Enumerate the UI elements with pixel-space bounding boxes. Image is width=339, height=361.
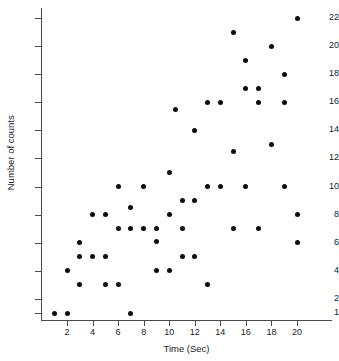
y-tick-mark — [35, 46, 41, 47]
y-tick-mark — [35, 243, 41, 244]
data-point — [282, 184, 287, 189]
data-point — [65, 268, 70, 273]
data-point — [77, 254, 82, 259]
x-tick-label: 6 — [107, 328, 129, 337]
data-point — [295, 212, 300, 217]
y-tick-label: 4 — [307, 266, 339, 275]
x-tick-mark — [118, 320, 119, 326]
x-tick-mark — [246, 320, 247, 326]
x-tick-mark — [195, 320, 196, 326]
x-tick-mark — [220, 320, 221, 326]
x-tick-label: 14 — [209, 328, 231, 337]
data-point — [52, 311, 57, 316]
y-tick-mark — [35, 299, 41, 300]
data-point — [154, 268, 159, 273]
data-point — [77, 240, 82, 245]
data-point — [256, 226, 261, 231]
y-tick-mark — [35, 18, 41, 19]
x-tick-label: 12 — [184, 328, 206, 337]
data-point — [256, 100, 261, 105]
data-point — [231, 149, 236, 154]
y-tick-label: 6 — [307, 238, 339, 247]
y-tick-mark — [35, 313, 41, 314]
data-point — [128, 226, 133, 231]
x-axis-title: Time (Sec) — [41, 344, 332, 354]
data-point — [180, 226, 185, 231]
y-axis-line — [41, 8, 42, 320]
data-point — [180, 254, 185, 259]
data-point — [192, 254, 197, 259]
data-point — [103, 212, 108, 217]
data-point — [141, 226, 146, 231]
data-point — [103, 254, 108, 259]
data-point — [128, 311, 133, 316]
y-tick-label: 10 — [307, 182, 339, 191]
data-point — [173, 107, 178, 112]
data-point — [65, 311, 70, 316]
x-tick-mark — [67, 320, 68, 326]
y-tick-label: 2 — [307, 294, 339, 303]
y-tick-mark — [35, 74, 41, 75]
data-point — [205, 184, 210, 189]
data-point — [243, 58, 248, 63]
data-point — [231, 226, 236, 231]
data-point — [154, 226, 159, 231]
data-point — [141, 184, 146, 189]
scatter-plot-figure: 1246810121416182022 2468101214161820 Tim… — [0, 0, 339, 361]
x-tick-label: 16 — [235, 328, 257, 337]
y-tick-label: 22 — [307, 13, 339, 22]
data-point — [243, 86, 248, 91]
data-point — [269, 44, 274, 49]
y-tick-label: 8 — [307, 210, 339, 219]
data-point — [116, 282, 121, 287]
data-point — [90, 254, 95, 259]
x-tick-mark — [271, 320, 272, 326]
x-tick-label: 10 — [158, 328, 180, 337]
data-point — [269, 142, 274, 147]
y-axis-title: Number of counts — [6, 88, 16, 218]
data-point — [205, 100, 210, 105]
x-tick-mark — [169, 320, 170, 326]
data-point — [90, 212, 95, 217]
y-tick-mark — [35, 130, 41, 131]
data-point — [205, 282, 210, 287]
y-tick-label: 1 — [307, 308, 339, 317]
data-point — [218, 184, 223, 189]
data-point — [154, 239, 159, 244]
y-tick-mark — [35, 215, 41, 216]
y-tick-label: 18 — [307, 69, 339, 78]
y-tick-mark — [35, 158, 41, 159]
x-tick-label: 4 — [82, 328, 104, 337]
y-tick-label: 12 — [307, 153, 339, 162]
x-tick-label: 8 — [133, 328, 155, 337]
x-tick-mark — [144, 320, 145, 326]
data-point — [77, 282, 82, 287]
data-point — [167, 212, 172, 217]
x-tick-label: 2 — [56, 328, 78, 337]
x-axis-line — [41, 320, 332, 321]
y-tick-label: 16 — [307, 97, 339, 106]
x-tick-label: 20 — [286, 328, 308, 337]
data-point — [282, 100, 287, 105]
data-point — [128, 205, 133, 210]
data-point — [167, 268, 172, 273]
data-point — [103, 282, 108, 287]
data-point — [180, 198, 185, 203]
y-tick-mark — [35, 271, 41, 272]
data-point — [218, 100, 223, 105]
data-point — [192, 198, 197, 203]
data-point — [282, 72, 287, 77]
x-tick-label: 18 — [260, 328, 282, 337]
y-tick-mark — [35, 187, 41, 188]
data-point — [231, 30, 236, 35]
data-point — [116, 184, 121, 189]
plot-area: 1246810121416182022 2468101214161820 Tim… — [0, 0, 339, 361]
x-tick-mark — [297, 320, 298, 326]
data-point — [295, 16, 300, 21]
x-tick-mark — [93, 320, 94, 326]
data-point — [256, 86, 261, 91]
data-point — [192, 128, 197, 133]
data-point — [116, 226, 121, 231]
y-tick-mark — [35, 102, 41, 103]
data-point — [243, 184, 248, 189]
